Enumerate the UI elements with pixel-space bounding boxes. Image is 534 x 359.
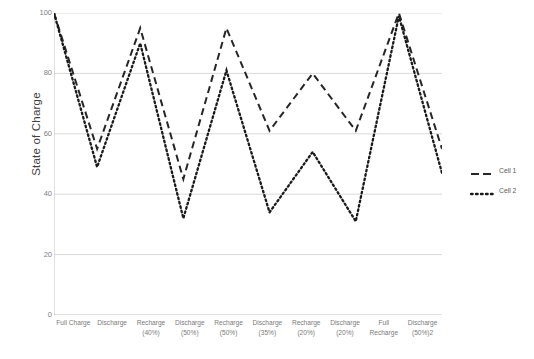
- x-tick-label: Discharge (50%): [170, 318, 209, 358]
- legend-item-1[interactable]: Cell 1: [470, 160, 532, 180]
- x-tick-label: Discharge (35%): [248, 318, 287, 358]
- plot-area: [54, 13, 442, 315]
- series-lines: [54, 13, 442, 221]
- y-tick-label: 20: [28, 251, 52, 259]
- axis-lines: [54, 13, 442, 315]
- chart-legend: Cell 1Cell 2: [470, 160, 532, 200]
- legend-label: Cell 2: [499, 187, 516, 194]
- y-tick-label: 80: [28, 69, 52, 77]
- x-tick-label: Recharge (40%): [132, 318, 171, 358]
- x-tick-label: Discharge (20%): [326, 318, 365, 358]
- x-axis-tick-labels: Full ChargeDischargeRecharge (40%)Discha…: [54, 318, 442, 358]
- x-tick-label: Full Recharge: [364, 318, 403, 358]
- y-tick-label: 60: [28, 130, 52, 138]
- x-tick-label: Discharge: [93, 318, 132, 358]
- series-line-1: [54, 13, 442, 179]
- x-tick-label: Recharge (50%): [209, 318, 248, 358]
- legend-label: Cell 1: [499, 167, 516, 174]
- series-line-2: [54, 13, 442, 221]
- legend-item-2[interactable]: Cell 2: [470, 180, 532, 200]
- gridlines: [54, 13, 442, 255]
- y-tick-label: 40: [28, 190, 52, 198]
- x-tick-label: Full Charge: [54, 318, 93, 358]
- y-tick-label: 100: [28, 9, 52, 17]
- y-tick-label: 0: [28, 311, 52, 319]
- y-axis-tick-labels: 100806040200: [28, 0, 52, 359]
- line-chart: State of Charge 100806040200 Full Charge…: [0, 0, 534, 359]
- x-tick-label: Recharge (20%): [287, 318, 326, 358]
- legend-swatch-icon: [470, 165, 496, 175]
- legend-swatch-icon: [470, 185, 496, 195]
- x-tick-label: Discharge (50%)2: [403, 318, 442, 358]
- plot-svg: [54, 13, 442, 315]
